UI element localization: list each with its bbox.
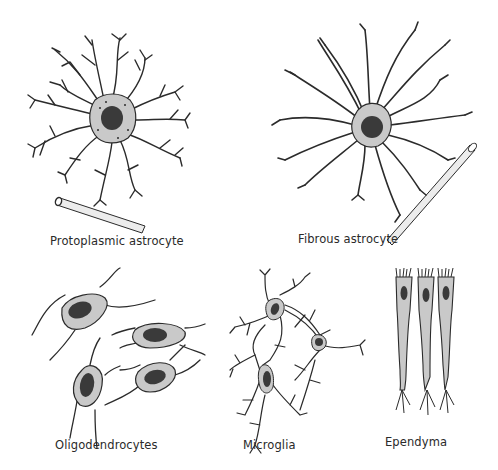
fibrous-astrocyte-illustration — [250, 0, 498, 250]
blood-vessel-icon — [54, 197, 145, 233]
label-fibrous-astrocyte: Fibrous astrocyte — [298, 232, 398, 246]
label-oligodendrocytes: Oligodendrocytes — [55, 438, 158, 452]
label-microglia: Microglia — [243, 438, 296, 452]
panel-microglia: Microglia — [225, 265, 370, 470]
blood-vessel-icon — [387, 142, 478, 245]
label-protoplasmic-astrocyte: Protoplasmic astrocyte — [50, 234, 184, 248]
nucleus-icon — [101, 106, 123, 130]
nucleus-icon — [361, 116, 383, 138]
label-ependyma: Ependyma — [385, 435, 447, 449]
panel-oligodendrocytes: Oligodendrocytes — [0, 260, 220, 470]
panel-ependyma: Ependyma — [390, 265, 498, 470]
panel-fibrous-astrocyte: Fibrous astrocyte — [250, 0, 498, 250]
panel-protoplasmic-astrocyte: Protoplasmic astrocyte — [0, 0, 250, 250]
protoplasmic-astrocyte-illustration — [0, 0, 250, 250]
